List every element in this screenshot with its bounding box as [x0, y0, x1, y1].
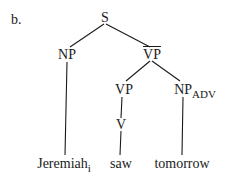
- edge-s-vpbar: [106, 24, 150, 47]
- edge-np-jeremiah: [65, 62, 67, 155]
- node-np-adv-subscript: ADV: [192, 88, 216, 100]
- node-np-adv: NPADV: [174, 83, 216, 101]
- node-vp-bar: VP: [143, 48, 161, 62]
- edge-vp-v: [121, 97, 122, 118]
- node-np-adv-label: NP: [174, 82, 192, 97]
- edge-v-saw: [120, 131, 121, 155]
- node-s: S: [101, 11, 109, 25]
- edge-s-np: [70, 24, 104, 47]
- leaf-jeremiah-word: Jeremiah: [37, 156, 88, 171]
- leaf-tomorrow: tomorrow: [154, 157, 209, 171]
- edge-vpbar-vp: [126, 61, 150, 81]
- edge-vpbar-npadv: [152, 61, 180, 81]
- edge-npadv-tomorrow: [182, 97, 183, 155]
- leaf-saw: saw: [110, 157, 132, 171]
- node-vp: VP: [115, 83, 133, 97]
- leaf-jeremiah: Jeremiahi: [37, 157, 91, 175]
- leaf-jeremiah-index: i: [88, 162, 91, 174]
- node-v: V: [116, 118, 126, 132]
- node-np: NP: [58, 48, 76, 62]
